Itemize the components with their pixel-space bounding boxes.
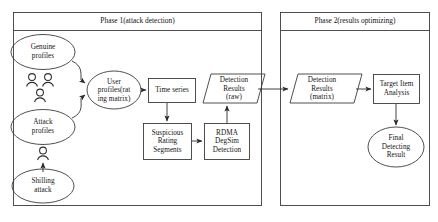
attack-profiles-shape [11, 110, 75, 145]
target-item-analysis-shape [374, 75, 420, 104]
phase-1-title: Phase 1(attack detection) [14, 16, 261, 25]
detection-results-raw-shape [203, 74, 265, 103]
user-icon [38, 147, 49, 160]
genuine-profiles-shape [11, 35, 75, 70]
suspicious-rating-segments-shape [144, 124, 192, 160]
edge-attack-to-user [72, 95, 85, 118]
phase-1-container [14, 13, 262, 206]
user-group-icon [27, 74, 54, 102]
shilling-attack-shape [12, 169, 74, 203]
edge-genuine-to-user [72, 61, 85, 83]
user-profiles-shape [87, 71, 141, 109]
phase-2-container [281, 13, 430, 206]
time-series-shape [149, 79, 196, 103]
rdma-degsim-detection-shape [205, 124, 250, 160]
final-detecting-result-shape [368, 127, 424, 167]
detection-results-matrix-shape [290, 74, 362, 103]
phase-2-title: Phase 2(results optimizing) [281, 16, 429, 25]
diagram-shapes-layer [0, 0, 438, 222]
flowchart-diagram: Phase 1(attack detection) Phase 2(result… [0, 0, 438, 222]
